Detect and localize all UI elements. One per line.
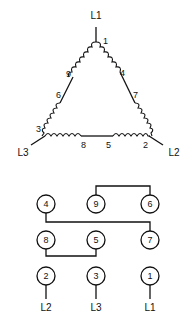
delta-terminal-9: 9	[66, 69, 71, 79]
left-upper-coil	[68, 42, 96, 77]
lead-label-l2: L2	[40, 302, 52, 313]
delta-wiring-diagram: L1 L3 L2 1 4 7 9 6 3 8 5 2	[0, 0, 188, 325]
terminal-9-label: 9	[93, 199, 98, 209]
link-8-5	[46, 249, 96, 256]
delta-terminal-8: 8	[81, 140, 86, 150]
terminal-1-label: 1	[147, 271, 152, 281]
delta-terminal-5: 5	[106, 140, 111, 150]
link-9-6	[96, 186, 150, 195]
terminal-2-label: 2	[43, 271, 48, 281]
bottom-left-coil	[45, 134, 81, 137]
delta-terminal-3: 3	[36, 124, 41, 134]
delta-terminal-6: 6	[56, 90, 61, 100]
bottom-right-coil	[113, 134, 150, 137]
delta-terminal-7: 7	[133, 90, 138, 100]
delta-terminal-1: 1	[103, 36, 108, 46]
terminal-8-label: 8	[43, 235, 48, 245]
right-lower-coil	[135, 103, 153, 136]
left-lower-coil	[42, 103, 60, 136]
delta-terminal-2: 2	[143, 140, 148, 150]
l3-lead	[31, 136, 45, 145]
terminal-6-label: 6	[147, 199, 152, 209]
l2-lead	[149, 136, 163, 145]
terminal-5-label: 5	[93, 235, 98, 245]
delta-terminal-4: 4	[120, 68, 125, 78]
l2-label: L2	[168, 147, 180, 158]
lead-label-l1: L1	[144, 302, 156, 313]
terminal-3-label: 3	[93, 271, 98, 281]
terminal-board: 4 9 6 8 5 7 2 3 1 L2 L3 L1	[37, 186, 159, 313]
terminal-4-label: 4	[43, 199, 48, 209]
link-4-7	[46, 213, 150, 231]
right-upper-coil	[96, 42, 121, 72]
l3-label: L3	[17, 147, 29, 158]
terminal-7-label: 7	[147, 235, 152, 245]
lead-label-l3: L3	[90, 302, 102, 313]
delta-triangle: L1 L3 L2 1 4 7 9 6 3 8 5 2	[17, 10, 180, 158]
left-straight	[60, 77, 73, 103]
l1-label: L1	[90, 10, 102, 21]
